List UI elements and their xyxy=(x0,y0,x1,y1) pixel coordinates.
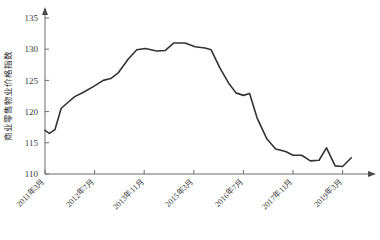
y-axis-arrow-icon xyxy=(42,7,48,15)
x-tick-group xyxy=(45,170,343,174)
x-tick-label: 2015年3月 xyxy=(163,176,196,209)
y-tick-label: 135 xyxy=(25,13,39,23)
y-axis-title-group: 商业零售物业价格指数 xyxy=(3,51,13,141)
price-index-series-line xyxy=(45,43,351,167)
x-tick-label: 2019年3月 xyxy=(311,176,344,209)
y-axis-title: 商业零售物业价格指数 xyxy=(3,51,13,141)
y-tick-label: 110 xyxy=(25,169,39,179)
y-tick-label: 125 xyxy=(25,76,39,86)
x-axis-arrow-icon xyxy=(368,171,376,177)
y-tick-label: 130 xyxy=(25,44,39,54)
y-axis: 110115120125130135 xyxy=(25,7,50,179)
x-axis: 2011年3月2012年7月2013年11月2015年3月2016年7月2017… xyxy=(14,170,376,211)
x-tick-label: 2011年3月 xyxy=(14,176,46,208)
x-tick-label: 2013年11月 xyxy=(110,176,145,211)
x-tick-label-group: 2011年3月2012年7月2013年11月2015年3月2016年7月2017… xyxy=(14,176,344,211)
y-tick-label: 120 xyxy=(25,107,39,117)
x-tick-label: 2016年7月 xyxy=(212,176,245,209)
x-tick-label: 2017年11月 xyxy=(259,176,294,211)
y-tick-label: 115 xyxy=(25,138,39,148)
retail-property-price-index-line-chart: 110115120125130135 2011年3月2012年7月2013年11… xyxy=(0,0,380,240)
x-tick-label: 2012年7月 xyxy=(63,176,96,209)
chart-container: 110115120125130135 2011年3月2012年7月2013年11… xyxy=(0,0,380,240)
